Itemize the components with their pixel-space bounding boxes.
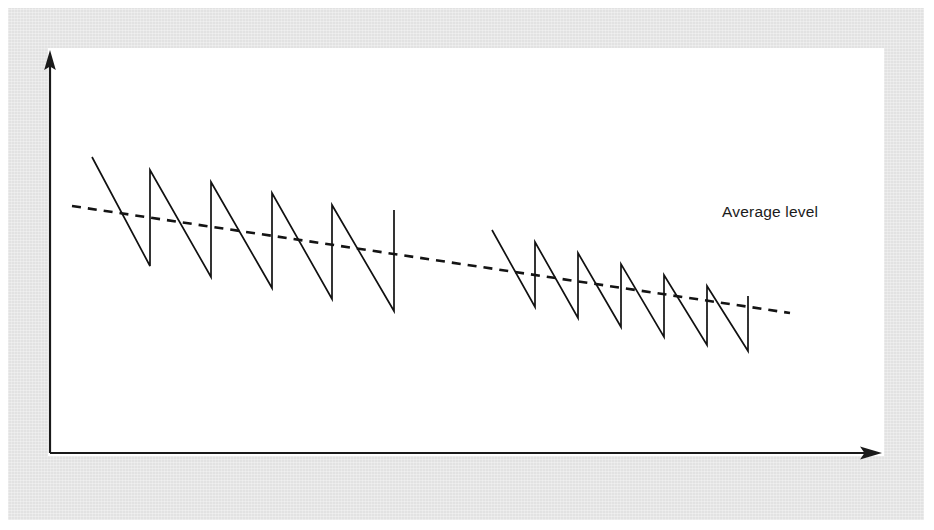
sawtooth-burst-1 — [92, 157, 394, 311]
sawtooth-burst-2 — [492, 230, 748, 351]
x-axis — [50, 447, 882, 460]
y-axis — [44, 50, 56, 453]
average-level-label: Average level — [722, 203, 818, 220]
figure-svg: Average level — [0, 0, 934, 530]
figure-page: Average level — [0, 0, 934, 530]
